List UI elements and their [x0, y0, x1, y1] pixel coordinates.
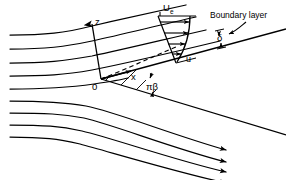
- origin-label: 0: [92, 82, 97, 92]
- edge-velocity-subscript: e: [170, 8, 174, 15]
- streamlines-lower: [10, 101, 226, 180]
- wedge-fill: [101, 29, 286, 135]
- wedge-body: [86, 29, 286, 180]
- edge-velocity-label: Ue: [163, 3, 174, 15]
- streamline-lower-3: [10, 125, 226, 172]
- diagram-canvas: [0, 0, 286, 180]
- boundary-layer-leader: [229, 22, 246, 34]
- streamline-lower-4: [10, 137, 226, 180]
- wedge-angle-label: πβ: [146, 82, 158, 92]
- z-axis-label: z: [95, 17, 100, 27]
- z-axis: [92, 24, 101, 79]
- edge-velocity-symbol: U: [163, 2, 170, 13]
- boundary-layer-label: Boundary layer: [210, 11, 267, 20]
- local-velocity-label: u: [186, 55, 191, 64]
- x-axis-label: x: [131, 72, 136, 82]
- wedge-flow-diagram: Boundary layer Ue u z x 0 δ πβ: [0, 0, 286, 180]
- delta-tick-top: [215, 29, 224, 31]
- delta-label: δ: [217, 33, 222, 43]
